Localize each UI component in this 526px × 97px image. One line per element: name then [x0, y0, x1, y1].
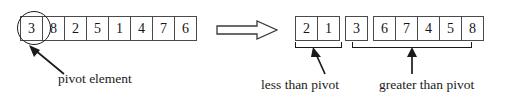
- less-than-pivot-label: less than pivot: [261, 78, 339, 92]
- greater-pointer-up-arrow-icon: [405, 47, 419, 75]
- pivot-element-label: pivot element: [58, 72, 132, 86]
- partition-group-less: 2 1: [295, 16, 340, 41]
- array-cell: 7: [152, 16, 175, 41]
- circle-highlight-icon: [17, 11, 51, 45]
- less-pointer-up-arrow-icon: [305, 47, 331, 75]
- array-cell: 5: [86, 16, 109, 41]
- array-cell: 4: [417, 16, 440, 41]
- partitioned-array: 2 1 3 6 7 4 5 8: [295, 16, 484, 41]
- right-double-arrow-outline-icon: [216, 20, 278, 40]
- partition-group-pivot: 3: [345, 16, 368, 41]
- greater-than-pivot-label: greater than pivot: [379, 78, 474, 92]
- array-cell: 2: [64, 16, 87, 41]
- array-cell: 3: [345, 16, 368, 41]
- array-cell: 6: [373, 16, 396, 41]
- array-cell: 7: [395, 16, 418, 41]
- array-cell: 1: [317, 16, 340, 41]
- array-cell: 6: [174, 16, 197, 41]
- array-cell: 5: [439, 16, 462, 41]
- array-cell: 8: [461, 16, 484, 41]
- partition-group-greater: 6 7 4 5 8: [373, 16, 484, 41]
- array-cell: 1: [108, 16, 131, 41]
- figure-canvas: 3 8 2 5 1 4 7 6 pivot element 2 1 3 6 7 …: [0, 0, 526, 97]
- array-cell: 4: [130, 16, 153, 41]
- array-cell: 2: [295, 16, 318, 41]
